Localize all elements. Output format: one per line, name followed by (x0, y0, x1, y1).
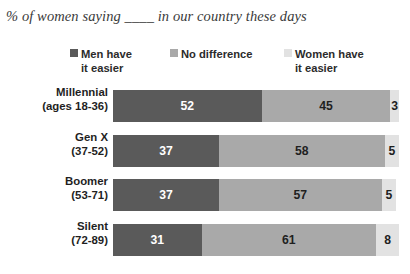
category-label-millennial: Millennial (ages 18-36) (0, 85, 108, 113)
chart-row: Boomer (53-71) 37 57 5 (0, 179, 410, 211)
stacked-bar-boomer: 37 57 5 (113, 179, 399, 211)
bar-segment-men-have-it-easier: 31 (113, 224, 202, 256)
category-label-silent: Silent (72-89) (0, 219, 108, 247)
category-label-line2: (53-71) (0, 188, 108, 202)
legend-label-women-have-it-easier-line2: it easier (295, 62, 402, 76)
category-label-line1: Gen X (75, 131, 108, 143)
category-label-line1: Silent (77, 220, 108, 232)
bar-segment-no-difference: 61 (202, 224, 376, 256)
category-label-line2: (72-89) (0, 233, 108, 247)
chart-row: Millennial (ages 18-36) 52 45 3 (0, 90, 410, 122)
legend-item-no-difference: No difference (170, 44, 282, 62)
bar-segment-women-have-it-easier: 5 (385, 135, 399, 167)
bar-segment-women-have-it-easier: 3 (390, 90, 399, 122)
chart-row: Silent (72-89) 31 61 8 (0, 224, 410, 256)
category-label-gen-x: Gen X (37-52) (0, 130, 108, 158)
bar-value-women: 5 (388, 144, 395, 158)
bar-segment-no-difference: 57 (219, 179, 382, 211)
legend-swatch-men-have-it-easier (70, 49, 78, 57)
bar-value-women: 5 (386, 188, 393, 202)
chart-title: % of women saying ____ in our country th… (6, 8, 406, 25)
legend-label-women-have-it-easier-line1: Women have (295, 48, 364, 60)
bar-value-women: 3 (391, 99, 398, 113)
category-label-line1: Boomer (65, 175, 108, 187)
category-label-boomer: Boomer (53-71) (0, 174, 108, 202)
category-label-line1: Millennial (56, 86, 108, 98)
bar-value-nodiff: 45 (319, 99, 333, 113)
chart-plot-area: Millennial (ages 18-36) 52 45 3 Gen X (3… (0, 86, 410, 268)
chart-row: Gen X (37-52) 37 58 5 (0, 135, 410, 167)
legend-swatch-women-have-it-easier (284, 49, 292, 57)
bar-value-men: 37 (159, 144, 173, 158)
legend-item-women-have-it-easier: Women haveit easier (284, 44, 404, 76)
bar-value-nodiff: 57 (294, 188, 308, 202)
category-label-line2: (ages 18-36) (0, 99, 108, 113)
legend-label-men-have-it-easier-line1: Men have (81, 48, 132, 60)
bar-segment-men-have-it-easier: 52 (113, 90, 262, 122)
bar-value-nodiff: 58 (295, 144, 309, 158)
bar-segment-men-have-it-easier: 37 (113, 179, 219, 211)
category-label-line2: (37-52) (0, 144, 108, 158)
legend-swatch-no-difference (170, 49, 178, 57)
bar-value-women: 8 (384, 233, 391, 247)
bar-value-men: 31 (151, 233, 165, 247)
bar-value-nodiff: 61 (282, 233, 296, 247)
bar-segment-women-have-it-easier: 5 (382, 179, 396, 211)
bar-segment-women-have-it-easier: 8 (376, 224, 399, 256)
chart-legend: Men haveit easier No difference Women ha… (70, 44, 406, 74)
legend-item-men-have-it-easier: Men haveit easier (70, 44, 162, 76)
bar-value-men: 52 (181, 99, 195, 113)
stacked-bar-millennial: 52 45 3 (113, 90, 399, 122)
stacked-bar-gen-x: 37 58 5 (113, 135, 399, 167)
legend-label-no-difference-line1: No difference (181, 48, 253, 60)
bar-segment-no-difference: 45 (262, 90, 391, 122)
bar-segment-men-have-it-easier: 37 (113, 135, 219, 167)
legend-label-men-have-it-easier-line2: it easier (81, 62, 160, 76)
stacked-bar-silent: 31 61 8 (113, 224, 399, 256)
stacked-bar-chart: % of women saying ____ in our country th… (0, 0, 410, 274)
bar-segment-no-difference: 58 (219, 135, 385, 167)
bar-value-men: 37 (159, 188, 173, 202)
